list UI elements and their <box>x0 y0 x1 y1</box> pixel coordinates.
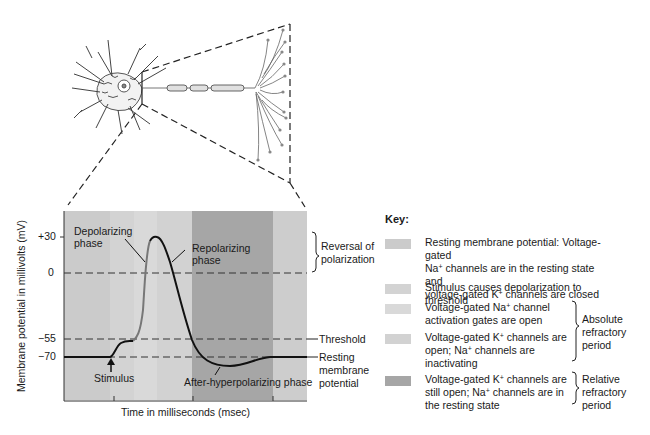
key-item-k-open: Voltage-gated K+ channels are open; Na+ … <box>385 331 610 370</box>
key-title: Key: <box>385 213 409 225</box>
stimulus-label: Stimulus <box>94 372 134 384</box>
key-item-relative: Voltage-gated K+ channels are still open… <box>385 373 610 412</box>
relative-refractory-label: Relative refractory period <box>582 373 626 412</box>
y-tick-m55: −55 <box>38 332 56 344</box>
key-swatch-k-open <box>385 334 411 344</box>
depolarizing-label: Depolarizing phase <box>74 225 132 249</box>
y-axis-label: Membrane potential in millivolts (mV) <box>15 206 27 406</box>
band-na-activation <box>134 211 157 400</box>
y-tick-p30: +30 <box>38 230 56 242</box>
threshold-label: Threshold <box>319 333 366 346</box>
reversal-of-polarization-label: Reversal of polarization <box>321 240 375 266</box>
key-swatch-relative <box>385 376 411 386</box>
y-tick-m70: −70 <box>38 350 56 362</box>
absolute-refractory-label: Absolute refractory period <box>582 313 626 352</box>
key-swatch-resting <box>385 239 411 249</box>
y-tick-zero: 0 <box>48 266 54 278</box>
band-k-open <box>157 211 192 400</box>
x-axis-label: Time in milliseconds (msec) <box>64 406 307 418</box>
after-hyperpolarizing-label: After-hyperpolarizing phase <box>184 376 312 388</box>
reversal-brace-icon <box>312 232 319 272</box>
key-swatch-na-activation <box>385 304 411 314</box>
key-swatch-stimulus <box>385 284 411 294</box>
band-relative-refractory <box>192 211 273 400</box>
band-resting-2 <box>273 211 307 400</box>
resting-membrane-potential-label: Resting membrane potential <box>319 351 369 390</box>
key-item-na-activation: Voltage-gated Na+ channel activation gat… <box>385 301 610 327</box>
repolarizing-label: Repolarizing phase <box>192 242 250 266</box>
